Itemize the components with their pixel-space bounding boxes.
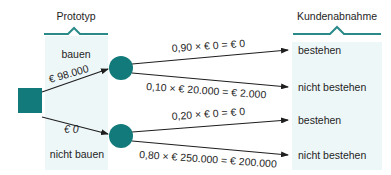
bauen-label: bauen [61,48,90,60]
formula-3: 0,20 × € 0 = € 0 [171,105,245,122]
formula-4: 0,80 × € 250.000 = € 200.000 [139,148,277,170]
chance-node-nicht-bauen [109,124,133,148]
formula-1: 0,90 × € 0 = € 0 [171,37,245,54]
prototyp-bracket [44,28,108,34]
kundenabnahme-header: Kundenabnahme [297,10,377,22]
decision-tree-diagram: Prototyp Kundenabnahme bauen € 98.000 € … [0,0,391,175]
outcome-3: bestehen [298,114,341,126]
kundenabnahme-bracket [293,27,381,34]
nicht-bauen-label: nicht bauen [50,148,104,160]
outcome-1: bestehen [298,44,341,56]
branch-line-1 [132,50,288,64]
prototyp-header: Prototyp [56,10,95,22]
decision-node-square [18,88,42,113]
outcome-4: nicht bestehen [298,149,366,161]
outcome-2: nicht bestehen [298,81,366,93]
branch-line-3 [132,120,288,132]
chance-node-bauen [109,56,133,80]
nicht-bauen-cost: € 0 [64,123,79,135]
